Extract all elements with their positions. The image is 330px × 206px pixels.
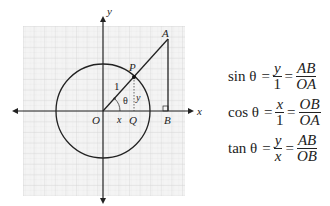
numerator: OB (299, 97, 321, 113)
fraction: x1 (275, 97, 284, 128)
label-P: P (128, 61, 136, 73)
label-y-segment: y (135, 92, 141, 103)
fraction: OBOA (299, 97, 321, 128)
formula-cos: cos θ = x1 = OBOA (228, 94, 321, 130)
equals: = (287, 104, 295, 121)
fraction: yx (274, 133, 283, 164)
numerator: y (273, 61, 282, 77)
function-name: tan θ (228, 140, 257, 157)
numerator: AB (297, 133, 317, 149)
function-name: cos θ (228, 104, 259, 121)
denominator: OA (296, 77, 316, 92)
fraction: y1 (273, 61, 282, 92)
equals: = (285, 68, 293, 85)
equals: = (264, 104, 272, 121)
numerator: y (274, 133, 283, 149)
label-radius: 1 (114, 80, 120, 92)
point-P (132, 75, 136, 79)
denominator: OB (297, 149, 317, 164)
denominator: 1 (276, 113, 284, 128)
unit-circle-diagram: y x O P Q A B 1 θ x y (0, 0, 215, 206)
label-x-segment: x (116, 114, 122, 125)
equals: = (261, 68, 269, 85)
x-axis-label: x (196, 105, 202, 117)
fraction: ABOB (297, 133, 317, 164)
trig-formulas: sin θ = y1 = ABOA cos θ = x1 = OBOA tan … (228, 58, 321, 166)
fraction: ABOA (296, 61, 316, 92)
formula-sin: sin θ = y1 = ABOA (228, 58, 321, 94)
label-B: B (164, 114, 171, 126)
label-Q: Q (129, 114, 137, 126)
denominator: x (275, 149, 282, 164)
label-theta: θ (123, 95, 128, 106)
function-name: sin θ (228, 68, 256, 85)
formula-tan: tan θ = yx = ABOB (228, 130, 321, 166)
denominator: 1 (274, 77, 282, 92)
label-A: A (161, 27, 169, 39)
label-O: O (92, 114, 100, 126)
equals: = (262, 140, 270, 157)
numerator: x (275, 97, 284, 113)
denominator: OA (300, 113, 320, 128)
numerator: AB (296, 61, 316, 77)
equals: = (285, 140, 293, 157)
y-axis-label: y (106, 5, 112, 17)
